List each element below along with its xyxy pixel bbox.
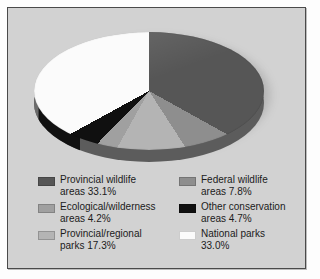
legend-swatch-national-parks <box>179 231 196 240</box>
legend-label-other-conservation: Other conservation areas 4.7% <box>201 201 286 224</box>
legend-item-provincial-regional-parks[interactable]: Provincial/regional parks 17.3% <box>38 228 156 251</box>
legend-swatch-federal-wildlife <box>179 177 196 186</box>
legend-label-federal-wildlife: Federal wildlife areas 7.8% <box>201 174 268 197</box>
legend-item-federal-wildlife[interactable]: Federal wildlife areas 7.8% <box>179 174 304 197</box>
legend-swatch-other-conservation <box>179 204 196 213</box>
chart-panel: Provincial wildlife areas 33.1% Ecologic… <box>7 7 306 269</box>
legend-column-right: Federal wildlife areas 7.8% Other conser… <box>156 174 304 268</box>
legend-swatch-provincial-wildlife <box>38 177 55 186</box>
legend-item-national-parks[interactable]: National parks 33.0% <box>179 228 304 251</box>
legend-item-other-conservation[interactable]: Other conservation areas 4.7% <box>179 201 304 224</box>
legend-label-ecological-wilderness: Ecological/wilderness areas 4.2% <box>60 201 156 224</box>
legend-swatch-provincial-regional-parks <box>38 231 55 240</box>
pie-top-face <box>34 32 264 150</box>
legend-column-left: Provincial wildlife areas 33.1% Ecologic… <box>8 174 156 268</box>
legend-label-provincial-wildlife: Provincial wildlife areas 33.1% <box>60 174 136 197</box>
legend-label-national-parks: National parks 33.0% <box>201 228 265 251</box>
legend-item-ecological-wilderness[interactable]: Ecological/wilderness areas 4.2% <box>38 201 156 224</box>
pie-chart <box>8 8 305 170</box>
legend-item-provincial-wildlife[interactable]: Provincial wildlife areas 33.1% <box>38 174 156 197</box>
chart-legend: Provincial wildlife areas 33.1% Ecologic… <box>8 174 305 268</box>
legend-swatch-ecological-wilderness <box>38 204 55 213</box>
chart-figure: Provincial wildlife areas 33.1% Ecologic… <box>0 0 320 279</box>
legend-label-provincial-regional-parks: Provincial/regional parks 17.3% <box>60 228 142 251</box>
